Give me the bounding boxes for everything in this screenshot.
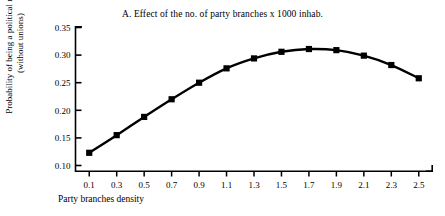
series-markers xyxy=(86,46,422,156)
chart-figure: A. Effect of the no. of party branches x… xyxy=(0,0,445,216)
data-point-marker xyxy=(306,46,312,52)
x-axis-tick-label: 2.5 xyxy=(413,180,425,190)
x-axis-tick-label: 2.1 xyxy=(358,180,369,190)
x-axis-tick-label: 2.3 xyxy=(386,180,398,190)
y-axis-ticks xyxy=(76,28,82,166)
data-point-marker xyxy=(86,150,92,156)
y-axis-tick-labels: 0.100.150.200.250.300.35 xyxy=(55,23,71,171)
y-axis-tick-label: 0.25 xyxy=(55,78,71,88)
x-axis-tick-label: 1.9 xyxy=(331,180,343,190)
axis-lines xyxy=(75,26,433,172)
x-axis-tick-label: 1.3 xyxy=(248,180,260,190)
y-axis-tick-label: 0.30 xyxy=(55,50,71,60)
data-point-marker xyxy=(416,75,422,81)
data-point-marker xyxy=(196,80,202,86)
y-axis-tick-label: 0.15 xyxy=(55,133,71,143)
x-axis-tick-label: 0.9 xyxy=(193,180,205,190)
data-point-marker xyxy=(251,55,257,61)
x-axis-tick-label: 1.1 xyxy=(221,180,232,190)
data-point-marker xyxy=(114,132,120,138)
y-axis-tick-label: 0.35 xyxy=(55,23,71,33)
x-axis-tick-label: 0.7 xyxy=(166,180,178,190)
data-point-marker xyxy=(278,49,284,55)
x-axis-tick-label: 0.1 xyxy=(84,180,95,190)
x-axis-tick-label: 1.7 xyxy=(303,180,315,190)
x-axis-tick-label: 1.5 xyxy=(276,180,288,190)
y-axis-tick-label: 0.20 xyxy=(55,106,71,116)
series-line xyxy=(89,49,419,153)
data-point-marker xyxy=(141,114,147,120)
x-axis-tick-labels: 0.10.30.50.70.91.11.31.51.71.92.12.32.5 xyxy=(84,180,425,190)
plot-area: 0.100.150.200.250.300.35 0.10.30.50.70.9… xyxy=(0,0,445,216)
data-point-marker xyxy=(388,62,394,68)
y-axis-tick-label: 0.10 xyxy=(55,161,71,171)
data-point-marker xyxy=(361,53,367,59)
data-point-marker xyxy=(333,47,339,53)
data-point-marker xyxy=(169,96,175,102)
data-point-marker xyxy=(223,65,229,71)
x-axis-tick-label: 0.5 xyxy=(139,180,151,190)
x-axis-tick-label: 0.3 xyxy=(111,180,123,190)
